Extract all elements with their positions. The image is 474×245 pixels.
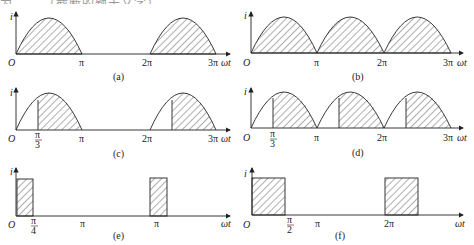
panel-caption: (a) [113,71,124,83]
panel-caption: (c) [113,148,124,160]
pulse [150,178,167,216]
origin-label: O [8,133,15,144]
pulse [385,178,418,215]
x-axis-label: ωt [221,218,231,229]
origin-label: O [8,57,15,68]
tick-label-pi-over-4: π 4 [31,215,38,236]
pulse [252,178,285,215]
tick-label: π [79,57,84,68]
panel-d: i O π 3 π 2π 3π ωt (d) [243,86,467,159]
panel-c: i O π 3 π 2π 3π ωt (c) [8,87,231,160]
pulse [17,179,33,216]
y-axis-label: i [244,168,247,179]
panel-caption: (d) [352,147,364,159]
sine-hump [251,17,317,53]
tick-label: 3π [443,132,453,143]
panel-b: i O π 2π 3π ωt (b) [243,10,467,83]
tick-label: π [314,57,319,68]
tick-label: π [80,218,85,229]
tick-label: 3π [208,133,218,144]
panel-caption: (b) [352,71,364,83]
conduction-area [38,93,82,130]
panel-f: i O π 2 π 2π ωt (f) [243,168,465,242]
conduction-area [273,92,317,128]
panel-caption: (f) [335,230,345,242]
tick-label: 3π [443,57,453,68]
svg-text:2: 2 [287,224,292,235]
tick-label-pi-over-3: π 3 [35,129,42,150]
panel-caption: (e) [113,230,124,242]
sine-hump [317,17,384,53]
y-axis-label: i [10,11,13,22]
tick-label: 3π [208,57,218,68]
origin-label: O [243,132,250,143]
x-axis-label: ωt [221,57,231,68]
svg-text:4: 4 [31,225,36,236]
svg-text:3: 3 [270,138,275,149]
tick-label: π [79,133,84,144]
origin-label: O [8,219,15,230]
conduction-area [339,92,384,128]
tick-label: π [315,218,320,229]
tick-label: 2π [377,57,387,68]
y-axis-label: i [244,86,247,97]
tick-label: π [154,218,159,229]
tick-label: 2π [377,132,387,143]
tick-label-pi-over-2: π 2 [287,214,294,235]
svg-text:3: 3 [35,139,40,150]
conduction-area [406,92,451,128]
panel-a: i O π 2π 3π ωt (a) [8,11,231,83]
y-axis-label: i [10,87,13,98]
x-axis-label: ωt [457,57,467,68]
sine-hump [384,17,451,53]
x-axis-label: ωt [221,133,231,144]
sine-hump [150,18,216,54]
x-axis-label: ωt [455,218,465,229]
tick-label: π [314,132,319,143]
tick-label-pi-over-3: π 3 [270,128,277,149]
waveform-figure: i O π 2π 3π ωt (a) i O π 2π 3π ωt (b) i … [0,0,474,245]
x-axis-label: ωt [457,132,467,143]
origin-label: O [243,219,250,230]
y-axis-label: i [244,10,247,21]
tick-label: 2π [142,57,152,68]
panel-e: i O π 4 π π ωt (e) [8,166,231,242]
tick-label: 2π [142,133,152,144]
sine-hump [16,18,82,54]
conduction-area [172,93,216,130]
y-axis-label: i [10,166,13,177]
origin-label: O [243,57,250,68]
tick-label: 2π [384,218,394,229]
